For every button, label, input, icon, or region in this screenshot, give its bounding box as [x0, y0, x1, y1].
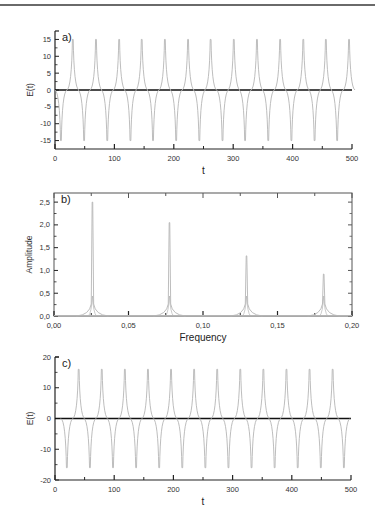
signal-spike — [205, 39, 217, 90]
y-tick-label: 20 — [43, 353, 51, 362]
x-tick-label: 500 — [345, 485, 358, 494]
signal-spike — [170, 90, 182, 141]
panel-b: 0,00,51,01,52,02,50,000,050,100,150,20Fr… — [24, 193, 359, 343]
signal-spike — [199, 419, 211, 468]
spectral-peak — [153, 223, 185, 316]
y-axis-title: Amplitude — [24, 235, 34, 273]
signal-spike — [343, 39, 355, 90]
spectral-peak — [308, 274, 340, 316]
signal-spike — [159, 39, 171, 90]
signal-spike — [257, 369, 269, 418]
x-tick-label: 0 — [53, 485, 57, 494]
signal-spike — [113, 39, 125, 90]
x-tick-label: 0,15 — [270, 321, 285, 330]
x-tick-label: 300 — [227, 154, 240, 163]
y-tick-label: 0,5 — [40, 289, 50, 298]
x-tick-label: 200 — [167, 485, 180, 494]
y-tick-label: 2,5 — [40, 198, 50, 207]
y-tick-label: -15 — [40, 136, 51, 145]
y-tick-label: 10 — [43, 383, 51, 392]
x-tick-label: 0,10 — [196, 321, 211, 330]
x-tick-label: 400 — [286, 154, 299, 163]
x-tick-label: 0,00 — [47, 321, 62, 330]
signal-spike — [119, 369, 131, 418]
signal-spike — [262, 90, 274, 141]
y-tick-label: 2,0 — [40, 220, 50, 229]
y-tick-label: -10 — [40, 119, 51, 128]
signal-spike — [124, 90, 136, 141]
panel-a: 151050-5-10-150100200300400500tE(t)a) — [25, 31, 358, 176]
signal-spike — [234, 369, 246, 418]
signal-spike — [239, 90, 251, 141]
x-tick-label: 500 — [346, 154, 359, 163]
panel-c: 20100-10-200100200300400500tE(t)c) — [25, 353, 357, 508]
signal-spike — [269, 419, 281, 468]
signal-spike — [338, 419, 350, 468]
signal-spike — [84, 419, 96, 468]
signal-spike — [320, 39, 332, 90]
x-tick-label: 100 — [108, 154, 121, 163]
signal-spike — [182, 39, 194, 90]
x-tick-label: 400 — [286, 485, 299, 494]
x-tick-label: 200 — [168, 154, 181, 163]
signal-spike — [246, 419, 258, 468]
x-axis-title: Frequency — [179, 332, 226, 343]
signal-spike — [285, 90, 297, 141]
signal-spike — [67, 39, 79, 90]
y-tick-label: 10 — [43, 52, 51, 61]
signal-spike — [153, 419, 165, 468]
signal-spike — [101, 90, 113, 141]
signal-spike — [176, 419, 188, 468]
signal-spike — [73, 369, 85, 418]
y-tick-label: -5 — [44, 102, 51, 111]
y-tick-label: 1,5 — [40, 243, 50, 252]
y-tick-label: 15 — [43, 35, 51, 44]
signal-spike — [193, 90, 205, 141]
signal-spike — [107, 419, 119, 468]
y-tick-label: -10 — [40, 445, 51, 454]
signal-spike — [222, 419, 234, 468]
signal-spike — [147, 90, 159, 141]
signal-spike — [228, 39, 240, 90]
panel-label: a) — [62, 31, 72, 43]
x-tick-label: 0,20 — [345, 321, 360, 330]
x-tick-label: 0 — [53, 154, 57, 163]
signal-spike — [188, 369, 200, 418]
spectral-peak — [231, 256, 263, 316]
y-tick-label: 0,0 — [40, 312, 50, 321]
panel-label: c) — [62, 357, 71, 369]
y-axis-title: E(t) — [25, 411, 35, 425]
y-tick-label: -20 — [40, 476, 51, 485]
signal-spike — [61, 419, 73, 468]
y-tick-label: 1,0 — [40, 266, 50, 275]
y-tick-label: 0 — [47, 414, 51, 423]
signal-spike — [90, 39, 102, 90]
signal-spike — [136, 39, 148, 90]
signal-spike — [315, 419, 327, 468]
x-tick-label: 300 — [226, 485, 239, 494]
y-axis-title: E(t) — [25, 83, 35, 97]
signal-spike — [251, 39, 263, 90]
x-tick-label: 0,05 — [121, 321, 136, 330]
signal-spike — [280, 369, 292, 418]
signal-spike — [297, 39, 309, 90]
figure: 151050-5-10-150100200300400500tE(t)a)0,0… — [0, 0, 375, 523]
signal-spike — [217, 90, 229, 141]
plot-frame — [54, 193, 352, 316]
signal-spike — [304, 369, 316, 418]
signal-spike — [165, 369, 177, 418]
signal-spike — [130, 419, 142, 468]
y-tick-label: 5 — [47, 69, 51, 78]
signal-spike — [96, 369, 108, 418]
signal-spike — [78, 90, 90, 141]
panel-label: b) — [61, 193, 71, 205]
signal-spike — [327, 369, 339, 418]
signal-spike — [211, 369, 223, 418]
x-tick-label: 100 — [108, 485, 121, 494]
signal-spike — [292, 419, 304, 468]
signal-spike — [331, 90, 343, 141]
x-axis-title: t — [202, 165, 205, 176]
signal-spike — [274, 39, 286, 90]
signal-spike — [309, 90, 321, 141]
x-axis-title: t — [202, 496, 205, 507]
